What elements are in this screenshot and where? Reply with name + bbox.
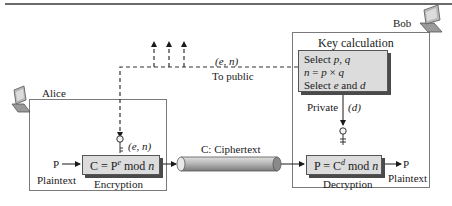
- bob-label: Bob: [393, 18, 411, 29]
- public-arrows: [117, 41, 187, 138]
- to-public-label: To public: [212, 71, 254, 82]
- ciphertext-label: C: Ciphertext: [201, 144, 261, 155]
- encryption-caption: Encryption: [94, 179, 143, 190]
- plaintext-input-label: Plaintext: [37, 175, 76, 186]
- decryption-box: P = Cd mod n: [306, 155, 382, 175]
- alice-laptop-icon: [12, 86, 30, 112]
- key-calc-line-2: n = p × q: [304, 67, 344, 78]
- decryption-formula: P = Cd mod n: [314, 159, 378, 172]
- key-calc-title: Key calculation: [318, 37, 394, 49]
- key-calc-line-1: Select p, q: [304, 54, 350, 65]
- bob-laptop-icon: [420, 5, 442, 32]
- private-key-value: (d): [348, 102, 361, 113]
- public-key-label: (e, n): [215, 56, 238, 67]
- private-key-icon: [340, 128, 346, 145]
- encryption-key-label: (e, n): [128, 141, 151, 152]
- key-calc-box: Select p, q n = p × q Select e and d: [298, 50, 388, 92]
- encryption-box: C = Pe mod n: [82, 155, 160, 175]
- ciphertext-pipe: [177, 157, 281, 171]
- decryption-caption: Decryption: [323, 179, 372, 190]
- private-label: Private: [307, 102, 338, 113]
- plaintext-output-label: Plaintext: [388, 173, 427, 184]
- plaintext-input-symbol: P: [53, 159, 59, 170]
- plaintext-output-symbol: P: [403, 159, 409, 170]
- public-key-icon: [117, 136, 123, 153]
- key-calc-line-3: Select e and d: [304, 80, 365, 91]
- alice-label: Alice: [42, 88, 66, 99]
- encryption-formula: C = Pe mod n: [90, 159, 154, 172]
